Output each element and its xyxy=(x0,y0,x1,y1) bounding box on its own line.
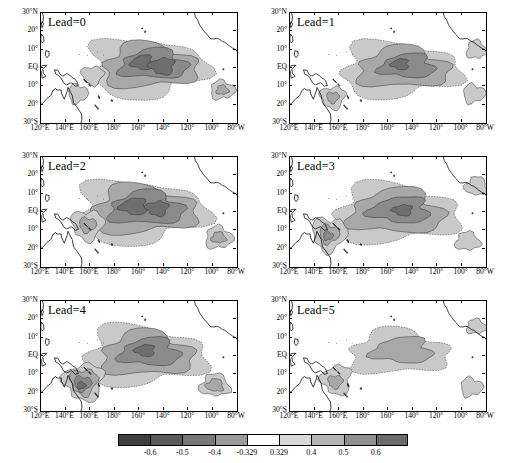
y-tick xyxy=(233,318,236,319)
y-tick-label: 30°N xyxy=(2,296,38,303)
y-tick-label: 10° xyxy=(2,189,38,196)
x-tick xyxy=(387,300,388,303)
y-tick xyxy=(289,174,292,175)
y-tick-label: 30°N xyxy=(251,8,287,15)
x-tick xyxy=(89,300,90,303)
y-tick xyxy=(40,85,43,86)
y-tick-label: 20° xyxy=(251,314,287,321)
y-tick xyxy=(289,85,292,86)
colorbar-outline xyxy=(118,434,408,446)
x-tick xyxy=(89,263,90,266)
y-tick xyxy=(482,174,485,175)
y-tick-label: 10° xyxy=(2,369,38,376)
y-tick xyxy=(289,392,292,393)
y-tick-label: 20° xyxy=(251,244,287,251)
y-tick xyxy=(482,373,485,374)
y-tick xyxy=(233,193,236,194)
y-tick xyxy=(482,355,485,356)
x-tick xyxy=(163,300,164,303)
y-tick xyxy=(40,49,43,50)
y-tick xyxy=(40,373,43,374)
y-tick xyxy=(482,193,485,194)
x-tick xyxy=(387,407,388,410)
y-tick xyxy=(233,174,236,175)
x-tick xyxy=(114,300,115,303)
y-tick xyxy=(289,229,292,230)
y-tick xyxy=(233,30,236,31)
x-tick xyxy=(163,156,164,159)
y-tick xyxy=(289,355,292,356)
y-tick-label: 10° xyxy=(251,45,287,52)
y-tick xyxy=(482,30,485,31)
y-tick-label: EQ xyxy=(251,351,287,358)
y-tick-label: 10° xyxy=(2,81,38,88)
y-tick xyxy=(40,229,43,230)
x-tick-label: 80°W xyxy=(216,412,256,419)
y-tick xyxy=(233,211,236,212)
y-tick-label: EQ xyxy=(251,207,287,214)
x-tick-label: 80°W xyxy=(465,268,505,275)
x-tick xyxy=(89,156,90,159)
x-tick xyxy=(212,407,213,410)
y-tick xyxy=(40,193,43,194)
x-tick xyxy=(363,156,364,159)
x-tick xyxy=(363,300,364,303)
y-tick xyxy=(289,373,292,374)
y-tick-label: 10° xyxy=(251,369,287,376)
y-tick-label: 30°N xyxy=(251,152,287,159)
y-tick xyxy=(233,337,236,338)
y-tick xyxy=(289,193,292,194)
x-tick xyxy=(138,12,139,15)
x-tick xyxy=(338,12,339,15)
y-tick xyxy=(40,392,43,393)
y-tick xyxy=(482,85,485,86)
x-tick xyxy=(363,119,364,122)
x-tick-label: 80°W xyxy=(465,124,505,131)
y-tick xyxy=(40,248,43,249)
x-tick xyxy=(461,263,462,266)
x-tick xyxy=(114,119,115,122)
x-tick xyxy=(212,119,213,122)
x-tick xyxy=(387,156,388,159)
y-tick xyxy=(233,229,236,230)
y-tick-label: 10° xyxy=(2,225,38,232)
x-tick xyxy=(138,156,139,159)
x-tick xyxy=(338,263,339,266)
x-tick xyxy=(338,156,339,159)
y-tick xyxy=(482,229,485,230)
y-tick xyxy=(482,104,485,105)
x-tick xyxy=(89,12,90,15)
x-tick xyxy=(387,12,388,15)
panel-title-1: Lead=1 xyxy=(297,15,335,30)
y-tick-label: 20° xyxy=(2,26,38,33)
x-tick xyxy=(114,156,115,159)
x-tick-label: 80°W xyxy=(216,124,256,131)
x-tick xyxy=(138,119,139,122)
x-tick xyxy=(138,300,139,303)
x-tick xyxy=(436,407,437,410)
y-tick-label: EQ xyxy=(2,63,38,70)
y-tick-label: 20° xyxy=(251,100,287,107)
x-tick xyxy=(461,156,462,159)
x-tick xyxy=(187,407,188,410)
y-tick xyxy=(40,355,43,356)
x-tick xyxy=(314,407,315,410)
y-tick xyxy=(289,318,292,319)
x-tick xyxy=(163,407,164,410)
y-tick xyxy=(482,248,485,249)
panel-title-2: Lead=2 xyxy=(48,159,86,174)
x-tick xyxy=(412,12,413,15)
y-tick-label: 20° xyxy=(2,170,38,177)
x-tick xyxy=(436,119,437,122)
x-tick xyxy=(412,407,413,410)
x-tick xyxy=(187,119,188,122)
x-tick xyxy=(412,263,413,266)
x-tick xyxy=(212,12,213,15)
x-tick xyxy=(363,263,364,266)
x-tick xyxy=(187,263,188,266)
x-tick xyxy=(461,407,462,410)
x-tick xyxy=(163,263,164,266)
x-tick xyxy=(187,156,188,159)
x-tick xyxy=(212,156,213,159)
x-tick xyxy=(338,300,339,303)
